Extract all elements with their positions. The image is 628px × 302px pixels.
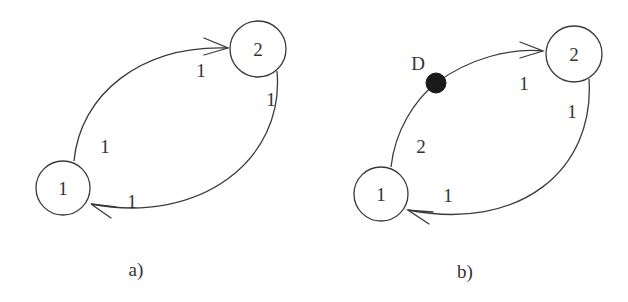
node-label: 2	[253, 39, 263, 60]
edge-weight: 1	[567, 101, 577, 122]
edge-weight: 1	[519, 73, 529, 94]
edge-weight: 1	[266, 89, 276, 110]
node-a-2: 2	[230, 21, 286, 77]
edge-weight: 1	[100, 136, 110, 157]
panel-a: 1 2 1 1 1 1 a)	[36, 21, 286, 281]
node-b-2: 2	[546, 26, 602, 82]
diagram-canvas: 1 2 1 1 1 1 a) D 1 2 1 1	[0, 0, 628, 302]
arrowhead-icon	[204, 38, 228, 55]
node-label: 1	[58, 178, 68, 199]
edge-weight: 1	[196, 60, 206, 81]
edge-weight: 2	[416, 136, 426, 157]
panel-caption: b)	[457, 261, 473, 283]
edge-weight: 1	[127, 191, 137, 212]
panel-b: D 1 2 1 1 2 1 b)	[354, 26, 602, 283]
edge-a-2-to-1	[91, 71, 278, 208]
node-b-1: 1	[354, 167, 408, 221]
node-a-1: 1	[36, 161, 90, 215]
edge-weight: 1	[443, 185, 453, 206]
panel-caption: a)	[129, 259, 144, 281]
arrowhead-icon	[91, 204, 116, 218]
delay-label: D	[411, 53, 425, 74]
edge-b-2-to-1	[408, 79, 589, 214]
node-label: 1	[376, 184, 386, 205]
node-label: 2	[569, 44, 579, 65]
delay-dot-icon	[426, 73, 446, 93]
